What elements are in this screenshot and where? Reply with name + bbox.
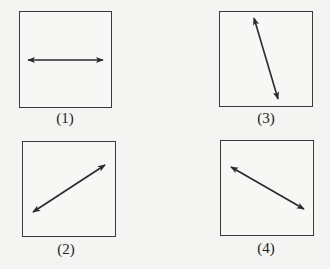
- panel-2-label: (2): [46, 241, 86, 258]
- double-arrow-3: [254, 18, 278, 99]
- double-arrow-2: [33, 165, 105, 212]
- arrows-layer: [0, 0, 330, 269]
- double-arrow-4: [231, 167, 304, 209]
- panel-4-label: (4): [246, 240, 286, 257]
- panel-3-label: (3): [246, 110, 286, 127]
- panel-1-label: (1): [45, 110, 85, 127]
